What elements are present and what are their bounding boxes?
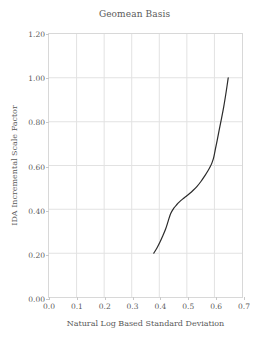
x-tick-label: 0.5 [182,302,194,311]
x-tick-label: 0.2 [99,302,111,311]
x-tick-mark [216,297,217,300]
y-tick-label: 0.80 [28,118,45,127]
chart-figure: Geomean Basis IDA Incremental Scale Fact… [0,0,269,341]
y-tick-label: 0.20 [28,250,45,259]
y-tick-mark [46,122,49,123]
y-axis-label-text: IDA Incremental Scale Factor [10,105,19,225]
x-tick-label: 0.1 [71,302,83,311]
x-tick-label: 0.7 [238,302,250,311]
y-tick-mark [46,78,49,79]
x-tick-mark [49,297,50,300]
x-tick-label: 0.0 [43,302,55,311]
x-tick-mark [244,297,245,300]
y-tick-label: 1.20 [28,30,45,39]
x-tick-mark [133,297,134,300]
x-tick-mark [160,297,161,300]
x-tick-label: 0.4 [154,302,166,311]
y-tick-mark [46,167,49,168]
y-tick-label: 0.60 [28,162,45,171]
x-tick-mark [77,297,78,300]
x-tick-mark [188,297,189,300]
y-tick-label: 0.40 [28,206,45,215]
y-axis-label: IDA Incremental Scale Factor [8,33,20,298]
y-tick-label: 1.00 [28,74,45,83]
chart-title: Geomean Basis [0,9,269,19]
x-tick-label: 0.3 [127,302,139,311]
x-tick-mark [105,297,106,300]
plot-area: 0.000.200.400.600.801.001.200.00.10.20.3… [48,33,243,298]
y-tick-mark [46,255,49,256]
x-axis-label: Natural Log Based Standard Deviation [48,319,243,328]
x-tick-label: 0.6 [210,302,222,311]
data-series-line [49,34,242,297]
y-tick-mark [46,34,49,35]
y-tick-mark [46,211,49,212]
series-path [154,78,228,253]
